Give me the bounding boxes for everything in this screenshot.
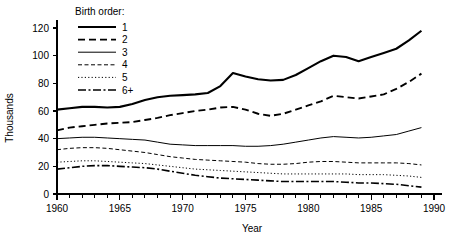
- y-tick-label: 100: [32, 50, 49, 61]
- y-axis: 020406080100120: [32, 20, 57, 200]
- x-tick-label: 1990: [423, 203, 446, 214]
- y-axis-title: Thousands: [4, 93, 15, 142]
- x-tick-label: 1970: [172, 203, 195, 214]
- legend-label-2: 2: [122, 34, 128, 45]
- legend-label-5: 5: [122, 72, 128, 83]
- chart-container: 020406080100120 196019651970197519801985…: [0, 0, 456, 237]
- y-tick-label: 120: [32, 23, 49, 34]
- series-line-6plus: [57, 166, 421, 187]
- y-tick-label: 40: [38, 133, 50, 144]
- y-tick-label: 20: [38, 161, 50, 172]
- series-line-3: [57, 128, 421, 147]
- series-line-1: [57, 31, 421, 110]
- legend-label-6plus: 6+: [122, 85, 134, 96]
- legend-label-4: 4: [122, 59, 128, 70]
- birth-order-line-chart: 020406080100120 196019651970197519801985…: [0, 0, 456, 237]
- legend-title: Birth order:: [75, 6, 124, 17]
- legend-label-1: 1: [122, 22, 128, 33]
- y-tick-label: 0: [43, 189, 49, 200]
- chart-legend: Birth order:123456+: [75, 6, 134, 96]
- x-axis-title: Year: [242, 223, 263, 234]
- x-axis: 1960196519701975198019851990: [46, 194, 446, 214]
- series-line-2: [57, 74, 421, 131]
- series-line-5: [57, 161, 421, 178]
- series-line-4: [57, 148, 421, 165]
- x-tick-label: 1975: [234, 203, 257, 214]
- x-tick-label: 1965: [109, 203, 132, 214]
- y-tick-label: 80: [38, 78, 50, 89]
- x-tick-label: 1980: [297, 203, 320, 214]
- legend-label-3: 3: [122, 47, 128, 58]
- x-tick-label: 1985: [360, 203, 383, 214]
- x-tick-label: 1960: [46, 203, 69, 214]
- y-tick-label: 60: [38, 106, 50, 117]
- series-lines: [57, 31, 421, 187]
